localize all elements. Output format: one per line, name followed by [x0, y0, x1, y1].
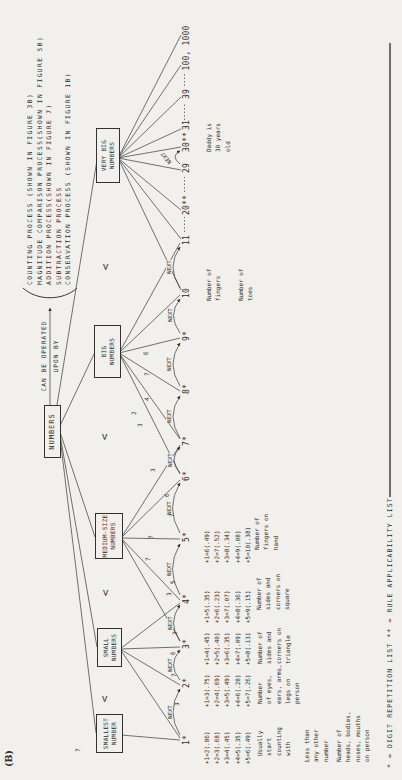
- edge-weight: 6: [142, 351, 149, 355]
- number-node-29: 29: [183, 163, 191, 173]
- annotation-daddy-30-years-old: Daddy is 30 years old: [204, 123, 232, 152]
- number-node-4: 4*: [183, 594, 191, 604]
- edge-weight: 2: [171, 631, 178, 635]
- edge-big-9: [119, 338, 180, 353]
- annotation-less-than-any-other: Less than any other number: [302, 729, 330, 762]
- number-node-11: 11: [183, 235, 191, 245]
- next-arc-6-7: [174, 447, 180, 473]
- next-arc-label: NEXT: [166, 562, 172, 576]
- category-box-smallest-number: SMALLEST NUMBER: [96, 714, 123, 753]
- next-arc-9-10: [174, 299, 181, 333]
- edge-root-medium: [59, 429, 95, 537]
- next-arc-1-2: [173, 689, 180, 735]
- equations-column-1: +1=2(.86) +2=3(.68) +3=4(.45) +4=5(.35) …: [202, 731, 253, 764]
- annotation-number-of-fingers: Number of fingers: [204, 268, 223, 301]
- number-node-5: 5*: [183, 532, 191, 542]
- next-arc-29-30: [175, 151, 180, 164]
- edge-verybig-20: [118, 158, 181, 210]
- operated-by-label-line1: CAN BE OPERATED: [40, 321, 47, 392]
- edge-root-small: [59, 429, 97, 647]
- edge-weight: 6: [163, 493, 170, 497]
- edge-weight: 2: [130, 411, 137, 415]
- equations-column-2: +1=3(.75) +2=4(.69) +3=5(.49) +4=6(.28) …: [202, 674, 253, 707]
- number-node-9: 9*: [183, 331, 191, 341]
- next-arc-label: NEXT: [167, 658, 173, 672]
- rotated-figure-page: (B) COUNTING PROCESS (SHOWN IN FIGURE 3B…: [0, 0, 402, 780]
- annotation-triangle-sides-corners: Number of sides and corners on triangle: [255, 628, 292, 664]
- next-arc-label: NEXT: [167, 453, 173, 467]
- number-node-39: 39: [183, 89, 191, 99]
- less-than-sign: <: [99, 434, 110, 441]
- edge-weight: 3: [165, 592, 172, 596]
- next-arc-label: NEXT: [167, 308, 173, 322]
- edge-weight: 7: [170, 673, 177, 677]
- next-arc-label: NEXT: [166, 409, 172, 423]
- root-node-numbers: NUMBERS: [44, 405, 61, 458]
- next-arc-8-9: [173, 343, 180, 386]
- process-list: COUNTING PROCESS (SHOWN IN FIGURE 3B) MA…: [25, 36, 73, 285]
- number-node-100-1000: 100, 1000: [183, 25, 191, 70]
- number-node-6: 6*: [183, 471, 191, 481]
- next-arc-3-4: [174, 605, 181, 641]
- edge-weight: 3: [173, 702, 180, 706]
- next-arc-label: NEXT: [167, 705, 173, 719]
- less-than-sign: <: [100, 590, 111, 597]
- edge-weight: 7: [144, 557, 151, 561]
- next-arc-5-6: [173, 483, 181, 533]
- category-box-big-numbers: BIG NUMBERS: [94, 325, 121, 378]
- edge-weight: 7: [168, 513, 175, 517]
- category-box-very-big-numbers: VERY BIG NUMBERS: [96, 128, 120, 183]
- equations-column-3: +1=4(.45) +2=5(.40) +3=6(.35) +4=7(.09) …: [202, 632, 253, 665]
- edge-weight: 7: [147, 535, 154, 539]
- edge-weight: 7: [143, 372, 150, 376]
- number-node-20: 20**: [183, 195, 191, 215]
- edge-root-smallest: [59, 429, 96, 733]
- annotation-fingers-on-hand: Number of fingers on hand: [252, 514, 280, 550]
- number-node-10: 10: [183, 288, 191, 298]
- edge-weight: 5: [169, 580, 176, 584]
- number-node-30: 30**: [183, 132, 191, 152]
- annotation-eyes-ears-arms-legs: Number of eyes, ears, arms, legs on pers…: [255, 664, 301, 704]
- edge-weight: 4: [143, 397, 150, 401]
- edge-big-10: [119, 295, 180, 353]
- operated-by-label-line2: UPON BY: [52, 339, 59, 372]
- edge-weight: 3: [136, 423, 143, 427]
- category-box-medium-size-numbers: MEDIUM-SIZE NUMBERS: [95, 513, 123, 559]
- next-arc-label: NEXT: [166, 260, 172, 274]
- equations-column-4: +1=5(.35) +2=6(.23) +3=7(.07) +4=8(.36) …: [202, 590, 253, 623]
- process-brace: [23, 288, 77, 298]
- next-arc-7-8: [173, 396, 180, 438]
- annotation-square-sides-corners: Number of sides and corners on square: [254, 574, 291, 610]
- edge-weight: 3: [149, 468, 156, 472]
- annotation-heads-bodies-noses: Number of heads, bodies, noses, mouths o…: [334, 711, 371, 762]
- number-node-31: 31: [183, 120, 191, 130]
- annotation-usually-start-counting: Usually start counting with: [255, 727, 292, 756]
- number-node-8: 8*: [183, 384, 191, 394]
- equations-column-5: +1=6(.49) +2=7(.52) +3=8(.34) +4=9(.08) …: [202, 527, 253, 563]
- edge-smallest-1: [121, 735, 180, 740]
- category-box-small-numbers: SMALL NUMBERS: [97, 628, 122, 667]
- next-arc-4-5: [173, 544, 181, 595]
- footnote-legend: * = DIGIT REPETITION LIST ** = RULE APPL…: [387, 497, 394, 768]
- edge-weight: 6: [169, 651, 176, 655]
- number-node-3: 3*: [183, 639, 191, 649]
- number-node-7: 7*: [183, 436, 191, 446]
- edge-root-big: [59, 354, 94, 428]
- edge-verybig-100: [118, 65, 181, 158]
- edge-weight: 7: [74, 748, 81, 752]
- number-node-1: 1*: [183, 735, 191, 745]
- edge-small-3: [120, 647, 180, 649]
- edge-verybig-1000: [118, 35, 181, 158]
- edge-verybig-11: [118, 158, 181, 239]
- next-arc-label: NEXT: [167, 616, 173, 630]
- annotation-number-of-toes: Number of toes: [236, 268, 255, 301]
- less-than-sign: <: [99, 696, 110, 703]
- less-than-sign: <: [100, 264, 111, 271]
- number-node-2: 2*: [183, 678, 191, 688]
- panel-label: (B): [5, 750, 12, 767]
- next-arc-label: NEXT: [166, 357, 172, 371]
